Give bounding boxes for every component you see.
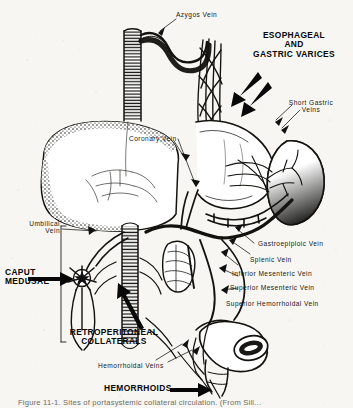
label-umbilical-vein-line2: Vein [2,227,60,234]
label-esophageal-gastric-varices-line3: GASTRIC VARICES [238,50,350,59]
label-hemorrhoids: HEMORRHOIDS [104,384,172,393]
label-azygos-vein: Azygos Vein [176,11,217,18]
label-retroperitoneal-collaterals: RETROPERITONEAL COLLATERALS [57,328,171,347]
label-umbilical-vein-line1: Umbilical [2,220,60,227]
label-umbilical-vein: Umbilical Vein [2,220,60,235]
label-hemorrhoidal-veins: Hemorrhoidal Veins [98,362,164,369]
label-caput-medusae-line2: MEDUSAE [5,277,65,286]
esophagus [124,29,141,121]
label-coronary-vein: Coronary Vein [129,135,177,142]
anatomical-figure: Azygos Vein ESOPHAGEAL AND GASTRIC VARIC… [0,0,353,408]
label-retroperitoneal-collaterals-line2: COLLATERALS [57,337,171,346]
label-superior-hemorrhoidal-vein: Superior Hemorrhoidal Vein [226,300,319,307]
label-superior-mesenteric-vein: Superior Mesenteric Vein [230,284,314,291]
label-gastroepiploic-vein: Gastroepiploic Vein [258,240,323,247]
figure-caption: Figure 11-1. Sites of portasystemic coll… [18,398,340,408]
label-short-gastric-veins: Short Gastric Veins [272,99,350,114]
label-splenic-vein: Splenic Vein [250,256,292,263]
label-short-gastric-veins-line2: Veins [272,106,350,113]
diagram-artwork [0,0,353,408]
label-short-gastric-veins-line1: Short Gastric [272,99,350,106]
label-esophageal-gastric-varices: ESOPHAGEAL AND GASTRIC VARICES [238,31,350,59]
label-inferior-mesenteric-vein: Inferior Mesenteric Vein [232,270,312,277]
label-caput-medusae: CAPUT MEDUSAE [5,268,65,287]
